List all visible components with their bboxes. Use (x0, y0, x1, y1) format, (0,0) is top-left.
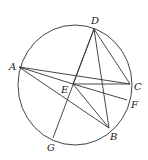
segments (19, 29, 130, 138)
label-E: E (60, 84, 69, 95)
segment-AE (19, 67, 73, 84)
label-B: B (109, 131, 117, 142)
label-F: F (130, 99, 139, 110)
geometry-diagram: A D C F B G E (0, 0, 148, 160)
label-G: G (47, 142, 55, 153)
label-A: A (8, 61, 16, 72)
label-D: D (90, 15, 99, 26)
segment-AB (19, 67, 109, 128)
segment-DC (94, 29, 130, 84)
label-C: C (134, 81, 142, 92)
segment-DE (73, 29, 94, 84)
segment-EF (73, 84, 127, 100)
